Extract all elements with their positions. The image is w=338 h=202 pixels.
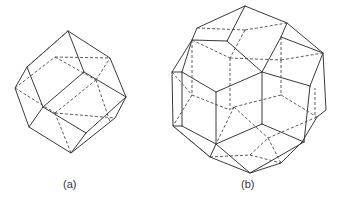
- polyhedron-a: [15, 31, 126, 153]
- polyhedra-drawing: [0, 0, 338, 202]
- panel-label-a: (a): [63, 178, 76, 190]
- polyhedron-b: [172, 6, 326, 173]
- polyhedra-figure: (a) (b): [0, 0, 338, 202]
- panel-label-b: (b): [241, 178, 254, 190]
